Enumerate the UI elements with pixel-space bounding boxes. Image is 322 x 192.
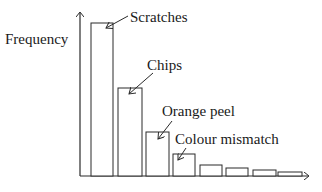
- annotation-orange-peel: Orange peel: [162, 104, 235, 119]
- pareto-chart: [0, 0, 322, 192]
- bar-orange-peel: [146, 132, 169, 176]
- bars: [91, 23, 302, 176]
- bar-scratches: [91, 23, 113, 176]
- annotation-colour-mismatch: Colour mismatch: [175, 132, 279, 147]
- annotation-scratches: Scratches: [130, 10, 187, 25]
- bar-chips: [118, 88, 142, 176]
- pointer-arrow-scratches: [106, 16, 128, 28]
- bar-other-8: [278, 172, 302, 176]
- annotation-chips: Chips: [147, 58, 182, 73]
- bar-other-6: [226, 168, 248, 176]
- y-axis-label: Frequency: [5, 31, 68, 48]
- bar-other-7: [253, 170, 276, 176]
- bar-colour-mismatch: [173, 154, 195, 176]
- bar-other-5: [200, 165, 222, 176]
